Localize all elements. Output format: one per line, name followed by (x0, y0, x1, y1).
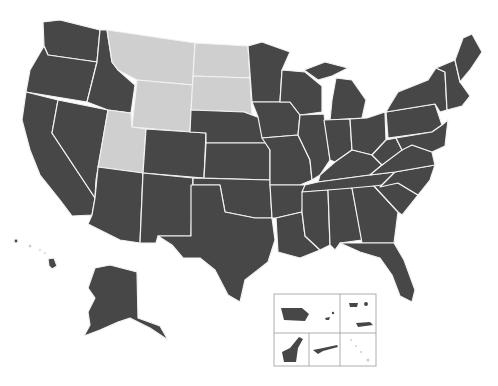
state-alaska[interactable] (84, 265, 168, 340)
us-map (0, 0, 498, 386)
state-wyoming[interactable] (132, 80, 193, 132)
state-south-dakota[interactable] (191, 76, 252, 115)
territories-inset (274, 294, 376, 366)
state-florida[interactable] (340, 243, 415, 302)
state-hawaii[interactable] (14, 239, 57, 269)
state-colorado[interactable] (143, 129, 206, 178)
state-north-dakota[interactable] (193, 43, 250, 78)
state-michigan[interactable] (330, 78, 366, 120)
state-maine[interactable] (455, 34, 482, 82)
state-new-york[interactable] (386, 68, 447, 112)
state-new-mexico[interactable] (140, 173, 193, 243)
state-kansas[interactable] (204, 143, 270, 180)
